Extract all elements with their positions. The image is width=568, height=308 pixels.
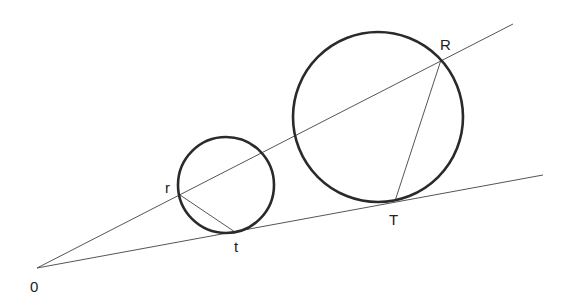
origin-label: 0: [30, 278, 38, 295]
small-circle: [178, 137, 274, 233]
lower-ray: [37, 175, 543, 268]
geometry-diagram: 0 r t R T: [0, 0, 568, 308]
point-label-T: T: [389, 211, 398, 228]
point-label-R: R: [440, 36, 451, 53]
point-label-r: r: [165, 179, 170, 196]
large-circle: [293, 32, 463, 202]
point-label-t: t: [234, 238, 239, 255]
